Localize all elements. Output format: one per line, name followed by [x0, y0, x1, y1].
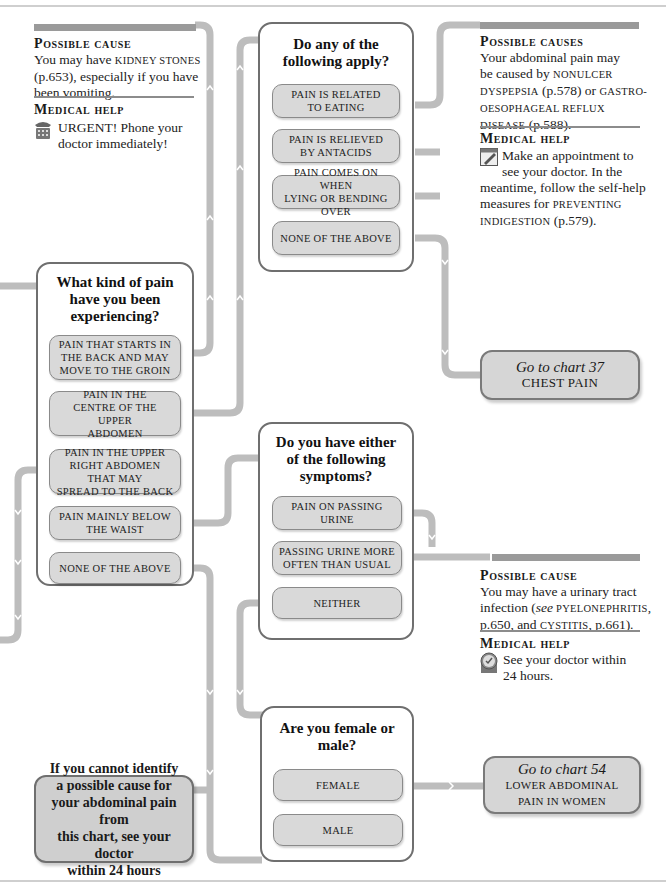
- dyspepsia-header-bar: [480, 22, 639, 29]
- kidney-cause-section: Possible cause You may have Kidney stone…: [34, 36, 204, 101]
- divider: [34, 96, 194, 98]
- option-relieved-by-antacids[interactable]: Pain is relievedby antacids: [272, 129, 400, 163]
- option-none-of-above[interactable]: None of the above: [272, 221, 400, 255]
- option-female[interactable]: Female: [273, 769, 403, 801]
- help-text: URGENT! Phone yourdoctor immediately!: [58, 120, 183, 152]
- top-rule: [0, 5, 666, 7]
- question-title: Are you female ormale?: [262, 720, 412, 754]
- goto-chart-37[interactable]: Go to chart 37 Chest Pain: [480, 350, 640, 400]
- bottom-rule: [0, 880, 666, 882]
- option-pain-passing-urine[interactable]: Pain on passing urine: [272, 496, 402, 530]
- telephone-icon: [34, 120, 52, 140]
- nonulcer-link[interactable]: Nonulcer: [553, 69, 613, 80]
- option-below-waist[interactable]: Pain mainly belowthe waist: [49, 506, 181, 540]
- clock-icon: [480, 652, 498, 674]
- advice-box-see-doctor: If you cannot identifya possible cause f…: [34, 775, 194, 863]
- divider: [480, 126, 640, 128]
- urinary-cause-section: Possible cause You may have a urinary tr…: [480, 568, 666, 634]
- option-male[interactable]: Male: [273, 814, 403, 846]
- help-heading: Medical help: [480, 131, 570, 147]
- question-title: What kind of painhave you beenexperienci…: [38, 274, 192, 325]
- help-heading: Medical help: [480, 636, 570, 652]
- preventing-indigestion-link[interactable]: Preventing: [553, 199, 622, 210]
- kidney-stones-link[interactable]: Kidney stones: [115, 55, 201, 66]
- urinary-header-bar: [492, 554, 640, 561]
- pyelonephritis-link[interactable]: Pyelonephritis: [553, 603, 648, 614]
- question-title: Do you have eitherof the followingsympto…: [260, 434, 412, 485]
- option-related-to-eating[interactable]: Pain is relatedto eating: [272, 84, 400, 118]
- goto-chart-54[interactable]: Go to chart 54 Lower abdominal pain in w…: [483, 756, 641, 814]
- help-text: Make an appointment to see your doctor. …: [480, 148, 665, 230]
- question-title: Do any of thefollowing apply?: [260, 36, 412, 70]
- option-lying-or-bending[interactable]: Pain comes on whenlying or bending over: [272, 175, 400, 209]
- gastro-link[interactable]: gastro-: [599, 86, 647, 97]
- option-none-of-above[interactable]: None of the above: [49, 552, 181, 584]
- option-frequent-urination[interactable]: passing urine moreoften than usual: [272, 541, 402, 575]
- cause-heading: Possible cause: [34, 36, 204, 52]
- help-text: See your doctor within24 hours.: [503, 652, 626, 684]
- cause-heading: Possible causes: [480, 34, 660, 50]
- kidney-header-bar: [34, 24, 196, 31]
- kidney-help-section: Medical help: [34, 102, 204, 118]
- option-back-to-groin[interactable]: Pain that starts inthe back and maymove …: [49, 335, 181, 380]
- help-heading: Medical help: [34, 102, 204, 118]
- cause-text: You may have Kidney stones (p.653), espe…: [34, 52, 204, 101]
- option-centre-upper-abdomen[interactable]: Pain in thecentre of the upperabdomen: [49, 391, 181, 436]
- option-neither[interactable]: Neither: [272, 587, 402, 619]
- option-upper-right-abdomen[interactable]: Pain in the upperright abdomen that mays…: [49, 449, 181, 494]
- divider: [480, 630, 640, 632]
- cause-heading: Possible cause: [480, 568, 666, 584]
- dyspepsia-cause-section: Possible causes Your abdominal pain may …: [480, 34, 660, 134]
